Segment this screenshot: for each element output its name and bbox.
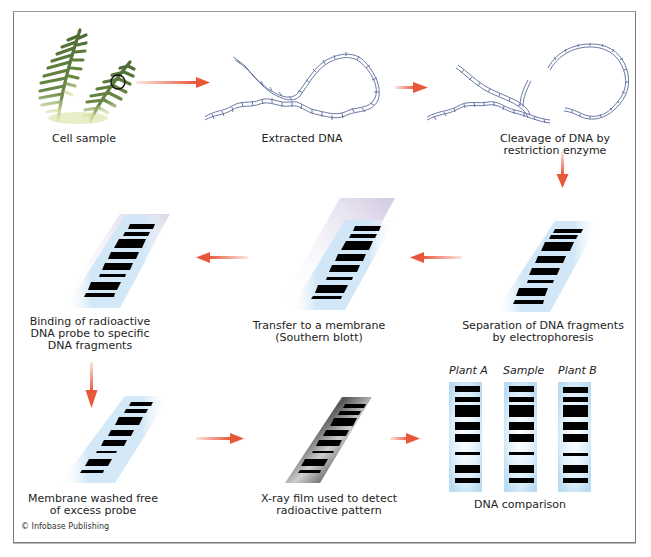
arrow-down-icon: [86, 362, 98, 408]
label-xray-film-line2: radioactive pattern: [254, 505, 404, 517]
arrow-right-icon: [390, 433, 420, 444]
arrow-left-icon: [410, 252, 462, 263]
probe-membrane-icon: [60, 214, 170, 308]
label-membrane-washed-line2: of excess probe: [28, 505, 158, 517]
label-membrane-washed: Membrane washed free of excess probe: [28, 493, 158, 517]
arrow-right-icon: [196, 433, 244, 444]
label-cell-sample: Cell sample: [44, 133, 124, 145]
label-electrophoresis: Separation of DNA fragments by electroph…: [448, 320, 638, 344]
label-dna-comparison: DNA comparison: [470, 499, 570, 511]
label-cleavage: Cleavage of DNA by restriction enzyme: [480, 133, 630, 157]
dna-helix-icon: [205, 52, 379, 120]
lane-sample: [504, 382, 537, 492]
gel-electrophoresis-icon: [495, 221, 600, 312]
arrow-down-icon: [557, 152, 569, 188]
washed-membrane-icon: [60, 396, 170, 483]
label-electrophoresis-line2: by electrophoresis: [448, 332, 638, 344]
label-extracted-dna: Extracted DNA: [252, 133, 352, 145]
lane-title-plant-a: Plant A: [449, 364, 488, 377]
label-probe-binding: Binding of radioactive DNA probe to spec…: [20, 316, 160, 352]
fern-icon: [40, 30, 134, 124]
dna-fragments-icon: [427, 43, 629, 123]
label-probe-binding-line3: DNA fragments: [20, 340, 160, 352]
membrane-transfer-icon: [280, 198, 395, 310]
lane-plant-a: [449, 382, 482, 492]
diagram-canvas: [0, 0, 651, 557]
copyright-credit: © Infobase Publishing: [21, 522, 109, 531]
label-xray-film: X-ray film used to detect radioactive pa…: [254, 493, 404, 517]
label-transfer-line2: (Southern blott): [244, 332, 394, 344]
arrow-left-icon: [196, 252, 248, 263]
xray-film-icon: [285, 397, 372, 483]
lane-title-plant-b: Plant B: [558, 364, 597, 377]
lane-plant-b: [558, 382, 591, 492]
arrow-right-icon: [136, 77, 210, 88]
label-cleavage-line2: restriction enzyme: [480, 145, 630, 157]
label-transfer: Transfer to a membrane (Southern blott): [244, 320, 394, 344]
arrow-right-icon: [395, 82, 428, 93]
lane-title-sample: Sample: [503, 364, 544, 377]
